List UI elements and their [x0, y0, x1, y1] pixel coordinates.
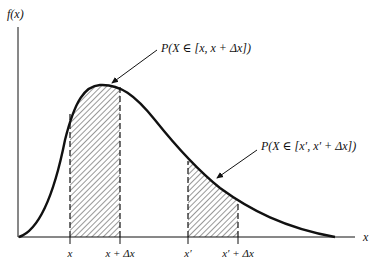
- tick-label-x: x: [68, 246, 73, 260]
- annotation-arrow-1: [112, 50, 157, 83]
- tick-label-x-prime-plus-dx: x′ + Δx: [222, 246, 254, 260]
- tick-marks: [70, 237, 238, 244]
- tick-label-x-prime: x′: [184, 246, 191, 260]
- diagram-canvas: [0, 0, 376, 262]
- shaded-region-2: [188, 60, 238, 237]
- annotation-probability-2: P(X ∈ [x′, x′ + Δx]): [261, 139, 356, 153]
- x-axis-label: x: [363, 230, 368, 244]
- y-axis-label: f(x): [7, 7, 24, 21]
- annotation-probability-1: P(X ∈ [x, x + Δx]): [161, 41, 251, 55]
- annotation-arrow-2: [217, 150, 257, 178]
- density-curve: [19, 85, 335, 237]
- tick-label-x-plus-dx: x + Δx: [105, 246, 134, 260]
- pdf-diagram: f(x) x x x + Δx x′ x′ + Δx P(X ∈ [x, x +…: [0, 0, 376, 262]
- axes: [18, 27, 355, 237]
